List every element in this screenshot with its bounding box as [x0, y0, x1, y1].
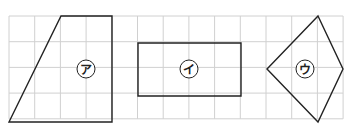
shapes-group: アイウ: [9, 16, 343, 122]
shape-label: イ: [183, 63, 195, 77]
shape-label: ウ: [299, 63, 311, 77]
shape-label: ア: [80, 63, 92, 77]
grid-figure: アイウ: [0, 0, 351, 129]
square-grid: [9, 16, 343, 119]
